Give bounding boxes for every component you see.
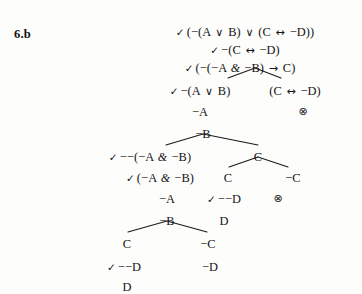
formula-node: C [123,238,131,250]
formula-node: ✓(−A & −B) [126,172,194,184]
check-icon: ✓ [126,172,137,184]
branch-lines-group [0,0,362,294]
formula-node: −B [159,215,174,227]
check-icon: ✓ [170,85,181,97]
formula-node: ✓−(C ↔ −D) [210,44,280,56]
formula-node: ✓−(A ∨ B) [170,85,231,97]
closed-branch-icon: ⊗ [298,106,307,117]
formula-node: −B [195,128,210,140]
check-icon: ✓ [207,193,218,205]
check-icon: ✓ [210,44,221,56]
formula-node: (C ↔ −D) [269,85,321,97]
check-icon: ✓ [107,261,118,273]
branch-fork [166,134,258,145]
check-icon: ✓ [176,26,187,38]
formula-node: D [122,281,131,293]
closed-branch-icon: ⊗ [273,193,282,204]
branch-line-right [203,134,258,145]
formula-node: −D [202,261,218,273]
formula-node: C [254,151,262,163]
formula-node: −C [200,238,215,250]
formula-node: −C [285,172,300,184]
formula-node: C [224,172,232,184]
formula-node: ✓(−(A ∨ B) ∨ (C ↔ −D)) [176,26,314,38]
formula-node: ✓(−(−A & −B) → C) [185,62,296,74]
formula-node: −A [192,106,208,118]
branch-line-right [258,157,288,167]
formula-node: D [219,215,228,227]
formula-node: −A [159,193,175,205]
check-icon: ✓ [109,151,120,163]
formula-node: ✓−−D [107,261,141,273]
formula-node: ✓−−D [207,193,241,205]
check-icon: ✓ [185,62,196,74]
formula-node: ✓−−(−A & −B) [109,151,191,163]
truth-tree-diagram: 6.b ✓(−(A ∨ B) ∨ (C ↔ −D))✓−(C ↔ −D)✓(−(… [0,0,362,294]
exercise-label: 6.b [14,27,31,42]
